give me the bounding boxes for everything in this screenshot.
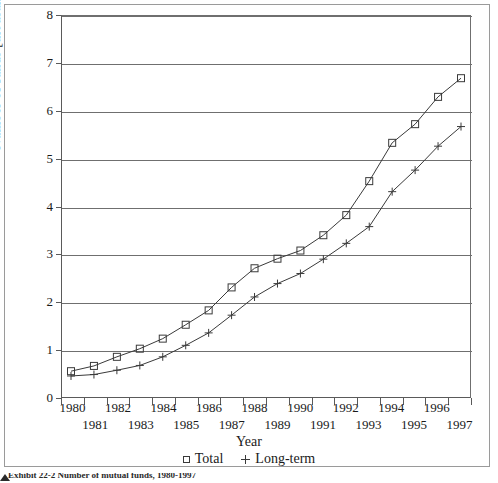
series-layer [0,0,498,483]
series-line [71,78,461,371]
plus-marker-icon [241,455,250,464]
legend-entry-total[interactable]: Total [183,451,224,467]
series-long-term [67,123,465,380]
caption-text: Exhibit 22-2 Number of mutual funds, 198… [8,473,196,480]
series-total [68,75,465,375]
legend-entry-long-term[interactable]: Long-term [241,451,315,467]
legend-label-total: Total [195,451,224,467]
series-line [71,127,461,376]
chart-legend: Total Long-term [0,451,498,467]
chart-figure: Number of funds [thousands] 012345678 19… [0,0,498,483]
figure-caption-clipped: Exhibit 22-2 Number of mutual funds, 198… [0,473,498,483]
legend-label-long-term: Long-term [255,451,315,467]
square-marker-icon [183,456,190,463]
